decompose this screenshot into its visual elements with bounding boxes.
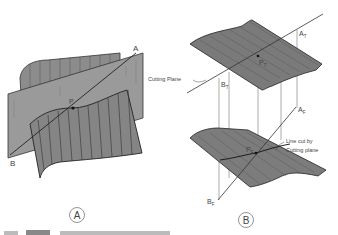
- cut-off-caption: [4, 230, 170, 235]
- label-at: AT: [299, 30, 307, 39]
- label-a: A: [133, 44, 139, 53]
- line-cut-label-2: Cutting plane: [286, 147, 318, 153]
- line-cut-label-1: Line cut by: [286, 138, 313, 144]
- label-bt: BT: [221, 81, 229, 90]
- caption-b: B: [243, 215, 250, 226]
- label-af: AF: [298, 106, 306, 115]
- cutting-plane-label: Cutting Plane: [148, 76, 181, 82]
- caption-a: A: [74, 210, 81, 221]
- label-bf: BF: [207, 198, 215, 207]
- label-b: B: [10, 159, 15, 168]
- figure-b: Cutting Plane AT BT PT Line cut by Cutti…: [148, 14, 326, 228]
- point-pf: [255, 152, 258, 155]
- figure-a: A B P A: [8, 44, 143, 223]
- point-p: [71, 106, 74, 109]
- leader-cutting-plane: [193, 80, 206, 82]
- front-view-surface: [190, 128, 326, 187]
- diagram-canvas: A B P A Cutting Plane AT BT PT: [0, 0, 338, 235]
- label-p: P: [69, 98, 74, 105]
- point-pt: [257, 55, 260, 58]
